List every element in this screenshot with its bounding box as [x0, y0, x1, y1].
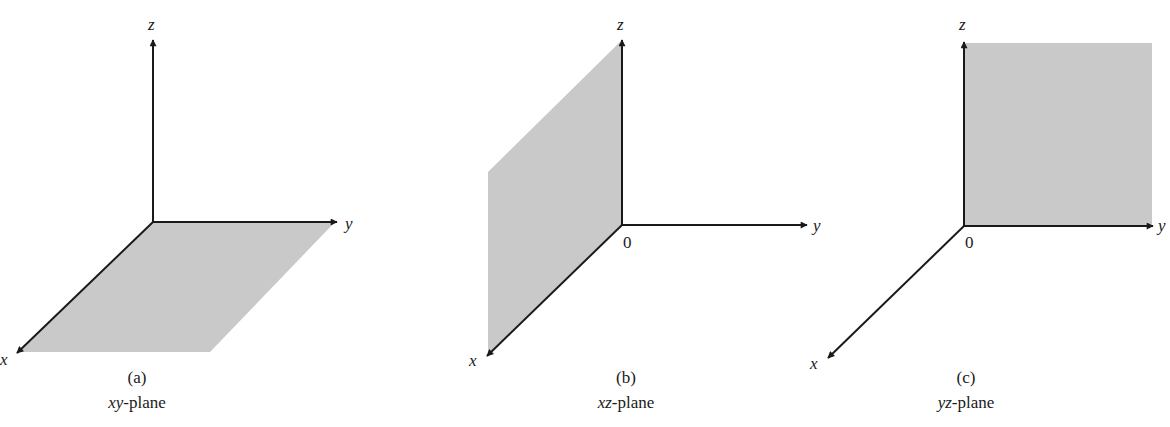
yz-plane-shading — [964, 43, 1152, 226]
origin-label: 0 — [623, 233, 632, 252]
panel-b-xz-plane: z y x 0 (b) xz-plane — [468, 15, 821, 412]
panel-c-yz-plane: z y x 0 (c) yz-plane — [809, 15, 1166, 412]
y-axis-label: y — [343, 214, 353, 233]
panel-b-letter: (b) — [616, 368, 636, 387]
x-axis — [828, 226, 964, 358]
origin-label: 0 — [965, 233, 974, 252]
panel-c-letter: (c) — [957, 368, 976, 387]
z-axis-label: z — [147, 15, 155, 34]
y-axis-label: y — [811, 216, 821, 235]
panel-a-letter: (a) — [128, 368, 147, 387]
xz-plane-shading — [488, 40, 622, 355]
xy-plane-shading — [18, 222, 335, 352]
panel-a-xy-plane: z y x (a) xy-plane — [0, 15, 353, 412]
z-axis-label: z — [958, 15, 966, 34]
panel-b-caption: xz-plane — [597, 393, 655, 412]
z-axis-label: z — [616, 15, 624, 34]
panel-c-caption: yz-plane — [936, 393, 995, 412]
y-axis-label: y — [1156, 216, 1166, 235]
panel-a-caption: xy-plane — [107, 393, 166, 412]
coordinate-planes-figure: z y x (a) xy-plane z y x 0 (b) xz-plane … — [0, 0, 1170, 427]
x-axis-label: x — [468, 351, 477, 370]
x-axis-label: x — [0, 350, 8, 369]
x-axis-label: x — [809, 354, 818, 373]
